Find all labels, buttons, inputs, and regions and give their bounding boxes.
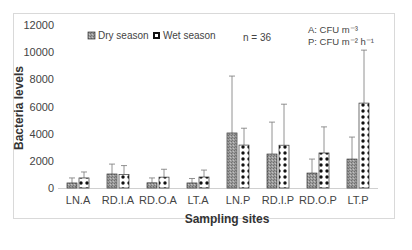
bar-wet-season <box>319 153 329 188</box>
bar-chart: 020004000600080001000012000 LN.ARD.I.ARD… <box>0 0 412 250</box>
bar-wet-season <box>79 178 89 188</box>
legend: Dry season Wet season <box>88 30 216 41</box>
legend-dry-label: Dry season <box>98 30 149 41</box>
x-tick-label: RD.O.A <box>139 194 178 206</box>
bar-wet-season <box>359 103 369 188</box>
bar-dry-season <box>347 159 357 188</box>
bar-dry-season <box>307 173 317 188</box>
sample-size-note: n = 36 <box>243 32 272 43</box>
unit-note-p: P: CFU m⁻² h⁻¹ <box>308 36 374 47</box>
bar-dry-season <box>147 183 157 188</box>
x-tick-label: RD.I.A <box>102 194 135 206</box>
legend-wet-label: Wet season <box>163 30 216 41</box>
unit-note-a: A: CFU m⁻³ <box>308 24 358 35</box>
y-tick-label: 2000 <box>30 155 54 167</box>
bar-wet-season <box>199 177 209 188</box>
bar-dry-season <box>67 183 77 188</box>
y-axis-label: Bacteria levels <box>12 66 26 150</box>
bar-dry-season <box>227 133 237 188</box>
x-axis: LN.ARD.I.ARD.O.ALT.ALN.PRD.I.PRD.O.PLT.P <box>66 194 369 206</box>
x-tick-label: LT.P <box>347 194 368 206</box>
x-tick-label: RD.I.P <box>262 194 294 206</box>
x-tick-label: RD.O.P <box>299 194 337 206</box>
bar-wet-season <box>119 174 129 188</box>
bar-dry-season <box>267 154 277 188</box>
y-tick-label: 0 <box>48 182 54 194</box>
x-tick-label: LN.A <box>66 194 91 206</box>
y-tick-label: 12000 <box>23 19 54 31</box>
x-axis-label: Sampling sites <box>185 212 270 226</box>
bar-wet-season <box>159 177 169 188</box>
bars <box>67 50 369 188</box>
bar-wet-season <box>279 145 289 188</box>
x-tick-label: LN.P <box>226 194 250 206</box>
y-tick-label: 8000 <box>30 73 54 85</box>
y-tick-label: 4000 <box>30 128 54 140</box>
bar-wet-season <box>239 145 249 188</box>
x-tick-label: LT.A <box>187 194 209 206</box>
legend-dry-swatch <box>88 32 95 39</box>
y-tick-label: 6000 <box>30 101 54 113</box>
bar-dry-season <box>187 183 197 188</box>
bar-dry-season <box>107 174 117 188</box>
y-tick-label: 10000 <box>23 46 54 58</box>
